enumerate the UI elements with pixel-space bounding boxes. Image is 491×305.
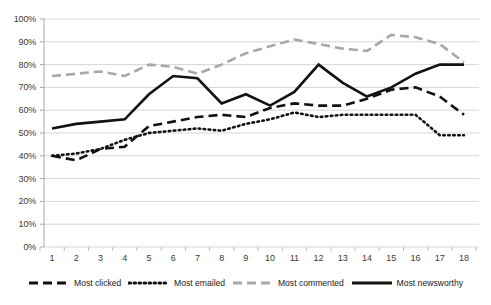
dotted-line-icon (128, 278, 170, 288)
legend-label: Most emailed (174, 278, 225, 288)
x-axis-tick-label: 3 (90, 253, 110, 263)
y-axis-tick-label: 100% (2, 14, 36, 24)
x-axis-tick-label: 17 (430, 253, 450, 263)
solid-line-icon (351, 278, 393, 288)
x-axis-tick-label: 5 (139, 253, 159, 263)
legend-item-most-clicked[interactable]: Most clicked (28, 278, 121, 288)
x-axis-tick-label: 14 (357, 253, 377, 263)
x-axis-tick-label: 15 (381, 253, 401, 263)
series-line-most-commented (52, 35, 464, 76)
dashed-line-icon (28, 278, 70, 288)
chart-legend: Most clickedMost emailedMost commentedMo… (0, 272, 491, 294)
legend-label: Most commented (278, 278, 344, 288)
x-axis-tick-label: 10 (260, 253, 280, 263)
y-axis-tick-label: 40% (2, 151, 36, 161)
x-axis-tick-label: 13 (333, 253, 353, 263)
legend-item-most-emailed[interactable]: Most emailed (128, 278, 225, 288)
y-axis-tick-label: 30% (2, 174, 36, 184)
x-axis-tick-label: 9 (236, 253, 256, 263)
x-axis-tick-label: 7 (187, 253, 207, 263)
x-axis-tick-label: 1 (42, 253, 62, 263)
y-axis-tick-label: 60% (2, 105, 36, 115)
line-chart: 0%10%20%30%40%50%60%70%80%90%100% 123456… (0, 0, 491, 305)
y-axis-tick-label: 70% (2, 82, 36, 92)
y-axis-tick-label: 10% (2, 219, 36, 229)
x-axis-tick-label: 6 (163, 253, 183, 263)
dashed-gray-line-icon (232, 278, 274, 288)
x-axis-tick-label: 8 (212, 253, 232, 263)
y-axis-tick-label: 90% (2, 37, 36, 47)
legend-label: Most newsworthy (397, 278, 463, 288)
y-axis-tick-label: 0% (2, 242, 36, 252)
y-axis-tick-label: 20% (2, 196, 36, 206)
y-axis-tick-label: 50% (2, 128, 36, 138)
x-axis-tick-label: 16 (406, 253, 426, 263)
legend-item-most-commented[interactable]: Most commented (232, 278, 344, 288)
y-axis-tick-label: 80% (2, 60, 36, 70)
x-axis-tick-label: 2 (66, 253, 86, 263)
series-line-most-clicked (52, 87, 464, 160)
x-axis-tick-label: 12 (309, 253, 329, 263)
legend-item-most-newsworthy[interactable]: Most newsworthy (351, 278, 463, 288)
x-axis-tick-label: 11 (284, 253, 304, 263)
series-line-most-emailed (52, 112, 464, 155)
x-axis-tick-label: 4 (115, 253, 135, 263)
legend-label: Most clicked (74, 278, 121, 288)
x-axis-tick-label: 18 (454, 253, 474, 263)
